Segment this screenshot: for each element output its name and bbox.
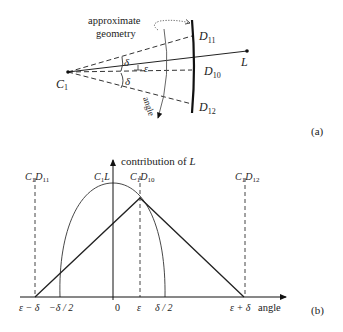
label-d12: D12 (198, 100, 216, 116)
label-c1l: C1L (94, 171, 110, 184)
label-d10: D10 (203, 64, 221, 80)
angle-label: angle (141, 96, 157, 118)
tick-eps-minus-delta: ε − δ (19, 302, 40, 313)
svg-text:D11: D11 (198, 29, 215, 45)
svg-text:D10: D10 (203, 64, 221, 80)
parabola-curve (60, 183, 165, 297)
figure-b: contribution of L C1D11 C1L C1D10 C1D12 … (19, 155, 324, 317)
y-axis-label: contribution of L (121, 155, 196, 167)
angle-arc (158, 29, 167, 118)
svg-text:C1: C1 (56, 77, 68, 92)
delta-upper-label: δ (124, 56, 130, 68)
label-c1d11: C1D11 (25, 171, 50, 184)
svg-text:L: L (240, 55, 248, 69)
delta-lower-label: δ (125, 75, 131, 87)
epsilon-arc (134, 65, 142, 70)
label-l: L (240, 55, 248, 69)
tick-minus-half-delta: −δ / 2 (49, 302, 73, 313)
label-c1d12: C1D12 (235, 171, 260, 184)
figure-a: angle δ δ ε approximate geometry C1 L D1… (56, 15, 324, 138)
annotation-approximate: approximate (88, 15, 141, 26)
tick-half-delta: δ / 2 (155, 302, 172, 313)
ray-c1-d11 (68, 36, 192, 72)
tick-eps: ε (137, 302, 141, 313)
epsilon-label: ε (144, 63, 148, 74)
point-c1 (66, 70, 70, 74)
tick-eps-plus-delta: ε + δ (230, 302, 251, 313)
figure-b-label: (b) (311, 304, 324, 317)
detector-curve (192, 20, 194, 113)
line-c1-l (68, 51, 247, 72)
annotation-arrow (154, 20, 190, 30)
label-d11: D11 (198, 29, 215, 45)
svg-text:D12: D12 (198, 100, 216, 116)
point-l (245, 49, 249, 53)
label-c1: C1 (56, 77, 68, 92)
tick-zero: 0 (115, 302, 120, 313)
delta-arc-upper (121, 57, 123, 71)
label-c1d10: C1D10 (130, 171, 155, 184)
annotation-geometry: geometry (96, 28, 136, 39)
diagram-canvas: angle δ δ ε approximate geometry C1 L D1… (0, 0, 343, 332)
x-axis-label: angle (258, 302, 281, 313)
figure-a-label: (a) (311, 125, 324, 138)
